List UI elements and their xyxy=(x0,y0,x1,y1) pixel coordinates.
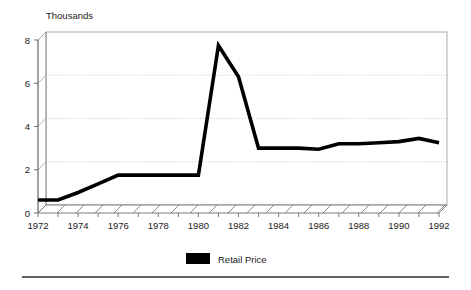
x-tick-label-1990: 1990 xyxy=(388,220,409,231)
x-tick-label-1978: 1978 xyxy=(148,220,169,231)
retail-price-line-chart: Thousands 8 6 4 2 0 1972 1974 1976 1978 … xyxy=(0,0,471,290)
y-tick-label-0: 0 xyxy=(25,208,30,219)
chart-legend: Retail Price xyxy=(186,253,267,265)
y-tick-label-2: 2 xyxy=(25,164,30,175)
legend-label-retail-price: Retail Price xyxy=(218,254,267,265)
x-tick-label-1976: 1976 xyxy=(108,220,129,231)
y-tick-label-6: 6 xyxy=(25,78,30,89)
x-tick-label-1986: 1986 xyxy=(308,220,329,231)
x-axis-ticks xyxy=(38,213,439,217)
x-tick-label-1988: 1988 xyxy=(348,220,369,231)
x-tick-label-1984: 1984 xyxy=(268,220,289,231)
x-tick-label-1980: 1980 xyxy=(188,220,209,231)
legend-swatch-retail-price xyxy=(186,253,210,264)
y-tick-label-4: 4 xyxy=(25,121,30,132)
x-tick-label-1992: 1992 xyxy=(428,220,449,231)
x-tick-label-1974: 1974 xyxy=(68,220,89,231)
x-tick-label-1982: 1982 xyxy=(228,220,249,231)
plot-floor-hatched xyxy=(38,205,447,213)
x-tick-label-1972: 1972 xyxy=(27,220,48,231)
y-tick-label-8: 8 xyxy=(25,35,30,46)
y-axis-unit-label: Thousands xyxy=(46,10,93,21)
